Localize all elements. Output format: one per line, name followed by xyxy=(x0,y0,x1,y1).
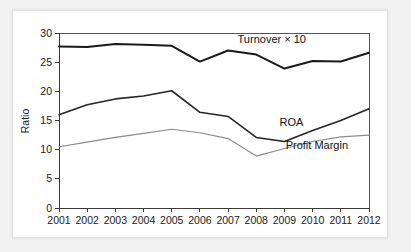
chart-card: 051015202530 200120022003200420052006200… xyxy=(12,10,388,238)
y-tick-label: 30 xyxy=(40,27,52,39)
x-tick-label: 2002 xyxy=(76,214,100,226)
y-tick-label: 20 xyxy=(40,85,52,97)
x-tick-label: 2005 xyxy=(160,214,184,226)
x-tick-label: 2008 xyxy=(245,214,269,226)
x-tick-label: 2009 xyxy=(273,214,297,226)
y-tick-label: 5 xyxy=(46,172,52,184)
series-annotations: Turnover × 10ROAProfit Margin xyxy=(238,33,348,151)
y-axis-title: Ratio xyxy=(19,109,31,134)
x-tick-label: 2006 xyxy=(188,214,212,226)
line-chart: 051015202530 200120022003200420052006200… xyxy=(13,11,389,239)
x-tick-label: 2001 xyxy=(47,214,71,226)
figure-root: 051015202530 200120022003200420052006200… xyxy=(0,0,411,252)
y-tick-label: 0 xyxy=(46,202,52,214)
y-axis-ticks: 051015202530 xyxy=(40,27,59,214)
series-label: Profit Margin xyxy=(286,139,348,151)
y-tick-label: 25 xyxy=(40,56,52,68)
x-tick-label: 2003 xyxy=(104,214,128,226)
x-tick-label: 2012 xyxy=(357,214,381,226)
y-tick-label: 10 xyxy=(40,143,52,155)
x-tick-label: 2010 xyxy=(301,214,325,226)
series-label: Turnover × 10 xyxy=(238,33,306,45)
series-line xyxy=(59,44,369,69)
x-axis-ticks: 2001200220032004200520062007200820092010… xyxy=(47,208,381,226)
plot-axes xyxy=(59,33,369,208)
series-line xyxy=(59,91,369,142)
x-tick-label: 2011 xyxy=(330,214,353,226)
series-label: ROA xyxy=(280,116,305,128)
plot-frame xyxy=(59,33,369,208)
x-tick-label: 2007 xyxy=(216,214,240,226)
y-tick-label: 15 xyxy=(40,114,52,126)
x-tick-label: 2004 xyxy=(132,214,156,226)
